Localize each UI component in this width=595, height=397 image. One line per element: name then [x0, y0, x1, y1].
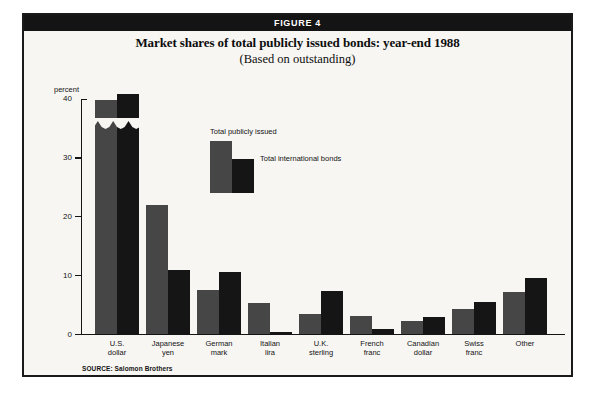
bar-japanese-yen-international-bonds — [168, 270, 190, 335]
x-category-label-swiss-franc: Swissfranc — [448, 339, 500, 357]
bar-german-mark-international-bonds — [219, 272, 241, 334]
legend-swatch-publicly-issued — [210, 141, 232, 193]
bar-swiss-franc-publicly-issued — [452, 309, 474, 335]
bars-layer: 46.348.0 — [24, 15, 575, 379]
axis-break-zigzag-icon — [94, 118, 140, 132]
bar-us-dollar-publicly-issued-cap — [95, 100, 117, 120]
bar-japanese-yen-publicly-issued — [146, 205, 168, 334]
bar-other-publicly-issued — [503, 292, 525, 335]
bar-italian-lira-publicly-issued — [248, 303, 270, 335]
bar-french-franc-international-bonds — [372, 329, 394, 335]
x-category-label-french-franc: Frenchfranc — [346, 339, 398, 357]
bar-u-s-dollar-publicly-issued — [95, 120, 117, 335]
source-note: SOURCE: Salomon Brothers — [82, 365, 173, 372]
figure-frame: FIGURE 4 Market shares of total publicly… — [22, 13, 573, 377]
x-category-label-canadian-dollar: Canadiandollar — [397, 339, 449, 357]
legend-label-international-bonds: Total international bonds — [260, 154, 341, 163]
bar-us-dollar-international-bonds-cap — [117, 94, 139, 114]
bar-canadian-dollar-international-bonds — [423, 317, 445, 335]
x-category-label-italian-lira: Italianlira — [244, 339, 296, 357]
bar-other-international-bonds — [525, 278, 547, 334]
x-category-label-u-k-sterling: U.K.sterling — [295, 339, 347, 357]
x-category-label-other: Other — [499, 339, 551, 348]
plot-area: percent 010203040 46.348.0 U.S.dollarJap… — [24, 15, 575, 379]
bar-german-mark-publicly-issued — [197, 290, 219, 335]
legend-label-publicly-issued: Total publicly issued — [210, 127, 277, 136]
x-category-label-japanese-yen: Japaneseyen — [142, 339, 194, 357]
x-category-label-u-s-dollar: U.S.dollar — [91, 339, 143, 357]
bar-italian-lira-international-bonds — [270, 332, 292, 334]
bar-u-k-sterling-international-bonds — [321, 291, 343, 335]
bar-u-k-sterling-publicly-issued — [299, 314, 321, 334]
bar-french-franc-publicly-issued — [350, 316, 372, 335]
bar-swiss-franc-international-bonds — [474, 302, 496, 335]
bar-canadian-dollar-publicly-issued — [401, 321, 423, 335]
bar-u-s-dollar-international-bonds — [117, 114, 139, 335]
legend-swatch-international-bonds — [232, 159, 254, 193]
x-category-label-german-mark: Germanmark — [193, 339, 245, 357]
